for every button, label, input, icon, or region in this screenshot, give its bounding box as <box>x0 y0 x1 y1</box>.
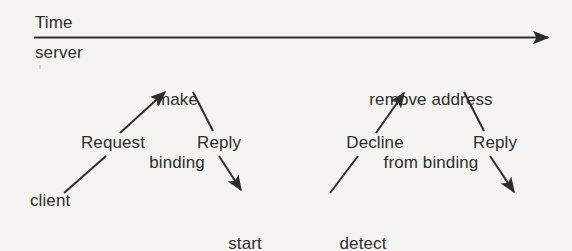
time-axis-label: Time <box>35 13 73 33</box>
node-detect-duplicate-line1: detect <box>329 233 398 251</box>
scan-speck <box>39 65 41 69</box>
node-remove-address: remove address from binding <box>369 47 492 215</box>
node-make-binding: make binding <box>149 47 205 215</box>
node-remove-address-line2: from binding <box>369 152 492 173</box>
message-label-decline: Decline <box>346 133 403 153</box>
node-start-dad: start DAD <box>227 191 263 251</box>
node-start-dad-line1: start <box>227 233 263 251</box>
node-make-binding-line1: make <box>149 89 205 110</box>
node-detect-duplicate: detect duplicate <box>329 191 398 251</box>
request-arrow-lower <box>64 156 106 193</box>
message-label-reply-1: Reply <box>197 133 241 153</box>
reply-1-arrow-lower <box>219 156 241 190</box>
reply-2-arrow-lower <box>490 156 514 192</box>
decline-arrow-lower <box>330 156 358 193</box>
server-lane-label: server <box>35 43 83 63</box>
message-label-request: Request <box>81 133 145 153</box>
sequence-diagram: Time server make binding remove address … <box>0 0 572 251</box>
node-make-binding-line2: binding <box>149 152 205 173</box>
node-remove-address-line1: remove address <box>369 89 492 110</box>
node-client: client <box>30 191 70 211</box>
message-label-reply-2: Reply <box>473 133 517 153</box>
